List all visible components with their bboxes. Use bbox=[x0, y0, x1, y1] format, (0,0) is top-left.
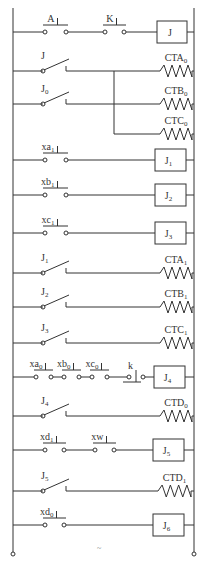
svg-text:xb1: xb1 bbox=[41, 176, 55, 189]
no-contact-j5: J5 bbox=[41, 470, 69, 493]
svg-text:J5: J5 bbox=[41, 470, 49, 483]
rung-r13: J5CTD1 bbox=[13, 470, 194, 497]
svg-text:J4: J4 bbox=[164, 372, 172, 385]
heater-ctd0: CTD0 bbox=[160, 397, 192, 422]
svg-text:J3: J3 bbox=[165, 228, 173, 241]
no-contact-j2: J2 bbox=[41, 286, 69, 309]
rung-r1: AKJ bbox=[13, 13, 194, 43]
no-contact-j: J bbox=[41, 50, 69, 73]
no-contact-j1: J1 bbox=[41, 252, 69, 275]
svg-text:J2: J2 bbox=[41, 286, 49, 299]
no-pushbutton-xa0: xa0 bbox=[30, 358, 53, 379]
heater-ctd1: CTD1 bbox=[158, 472, 191, 497]
relay-coil-j: J bbox=[157, 21, 187, 43]
svg-text:xb0: xb0 bbox=[57, 358, 71, 371]
heater-ctb0: CTB0 bbox=[160, 85, 192, 110]
svg-text:CTD1: CTD1 bbox=[163, 472, 187, 485]
svg-text:J: J bbox=[168, 27, 172, 38]
svg-text:xc0: xc0 bbox=[86, 358, 99, 371]
svg-text:CTB1: CTB1 bbox=[165, 288, 188, 301]
svg-text:J1: J1 bbox=[165, 155, 173, 168]
relay-coil-j3: J3 bbox=[155, 222, 186, 244]
relay-coil-j6: J6 bbox=[153, 514, 184, 536]
relay-coil-j2: J2 bbox=[155, 184, 186, 206]
rung-r9: J3CTC1 bbox=[13, 322, 194, 349]
svg-text:CTA0: CTA0 bbox=[165, 52, 188, 65]
no-pushbutton-k: K bbox=[103, 13, 126, 34]
heater-ctb1: CTB1 bbox=[160, 288, 192, 313]
no-contact-j3: J3 bbox=[41, 322, 69, 345]
svg-text:J6: J6 bbox=[163, 520, 171, 533]
rung-r5: xb1J2 bbox=[13, 176, 194, 206]
svg-text:J: J bbox=[41, 50, 45, 61]
svg-text:A: A bbox=[47, 13, 55, 24]
no-pushbutton-a: A bbox=[43, 13, 68, 34]
rung-r14: xd0J6 bbox=[13, 506, 194, 536]
svg-text:CTC0: CTC0 bbox=[165, 115, 188, 128]
rung-r7: J1CTA1 bbox=[13, 252, 194, 279]
svg-text:xa0: xa0 bbox=[30, 358, 43, 371]
svg-text:J3: J3 bbox=[41, 322, 49, 335]
rung-r6: xc1J3 bbox=[13, 214, 194, 244]
heater-ctc0: CTC0 bbox=[160, 115, 192, 140]
ladder-diagram: AKJJCTA0J0CTB0CTC0xa1J1xb1J2xc1J3J1CTA1J… bbox=[0, 0, 206, 566]
svg-text:J2: J2 bbox=[165, 190, 173, 203]
svg-text:k: k bbox=[128, 360, 133, 371]
relay-coil-j1: J1 bbox=[155, 149, 186, 171]
no-pushbutton-xb0: xb0 bbox=[57, 358, 81, 379]
ladder-diagram-svg: AKJJCTA0J0CTB0CTC0xa1J1xb1J2xc1J3J1CTA1J… bbox=[0, 0, 206, 566]
no-pushbutton-xw: xw bbox=[91, 431, 116, 452]
svg-text:CTB0: CTB0 bbox=[165, 85, 188, 98]
svg-text:CTD0: CTD0 bbox=[164, 397, 188, 410]
rung-r3: J0CTB0 bbox=[13, 83, 194, 110]
svg-text:CTC1: CTC1 bbox=[165, 324, 188, 337]
svg-text:J1: J1 bbox=[41, 252, 49, 265]
svg-text:xa1: xa1 bbox=[42, 141, 55, 154]
relay-coil-j5: J5 bbox=[153, 439, 184, 461]
footer-mark: ~ bbox=[97, 544, 101, 553]
no-contact-j0: J0 bbox=[41, 83, 69, 106]
rung-r2: JCTA0 bbox=[13, 50, 194, 77]
heater-cta1: CTA1 bbox=[160, 254, 192, 279]
rung-r10: xa0xb0xc0kJ4 bbox=[13, 358, 194, 388]
rung-r4: xa1J1 bbox=[13, 141, 194, 171]
heater-cta0: CTA0 bbox=[160, 52, 192, 77]
no-contact-j4: J4 bbox=[41, 395, 69, 418]
svg-text:xd0: xd0 bbox=[40, 506, 54, 519]
heater-ctc1: CTC1 bbox=[160, 324, 192, 349]
svg-text:J0: J0 bbox=[41, 83, 49, 96]
rung-r12: xd1xwJ5 bbox=[13, 431, 194, 461]
nc-pushbutton-k: k bbox=[123, 360, 145, 382]
svg-text:K: K bbox=[106, 13, 114, 24]
relay-coil-j4: J4 bbox=[154, 366, 185, 388]
svg-text:xc1: xc1 bbox=[42, 214, 55, 227]
svg-text:J5: J5 bbox=[163, 445, 171, 458]
no-pushbutton-xb1: xb1 bbox=[41, 176, 68, 197]
rung-r11: J4CTD0 bbox=[13, 395, 194, 422]
no-pushbutton-xc0: xc0 bbox=[86, 358, 109, 379]
svg-text:J4: J4 bbox=[41, 395, 49, 408]
rung-r8: J2CTB1 bbox=[13, 286, 194, 313]
svg-text:xd1: xd1 bbox=[40, 431, 54, 444]
no-pushbutton-xd1: xd1 bbox=[40, 431, 66, 452]
svg-text:xw: xw bbox=[91, 431, 104, 442]
svg-text:CTA1: CTA1 bbox=[165, 254, 188, 267]
no-pushbutton-xd0: xd0 bbox=[40, 506, 66, 527]
no-pushbutton-xa1: xa1 bbox=[42, 141, 68, 162]
no-pushbutton-xc1: xc1 bbox=[42, 214, 68, 235]
